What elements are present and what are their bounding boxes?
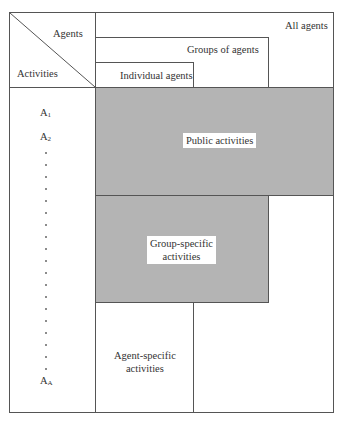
activities-axis-label: Activities — [17, 68, 58, 79]
public-activities-label: Public activities — [183, 133, 256, 148]
all-agents-label: All agents — [285, 20, 328, 31]
activity-row-a1: A1 — [40, 107, 51, 119]
activity-row-aa: AA — [40, 375, 53, 387]
agent-specific-divider — [193, 302, 194, 413]
group-specific-activities-label: Group-specific activities — [147, 236, 216, 264]
groups-of-agents-label: Groups of agents — [187, 44, 259, 55]
agent-specific-activities-label: Agent-specific activities — [114, 349, 176, 375]
individual-agents-label: Individual agents — [120, 70, 193, 81]
activity-row-a2: A2 — [40, 131, 51, 143]
activity-agent-matrix: Agents Activities All agents Groups of a… — [0, 0, 342, 425]
agents-axis-label: Agents — [53, 28, 83, 39]
